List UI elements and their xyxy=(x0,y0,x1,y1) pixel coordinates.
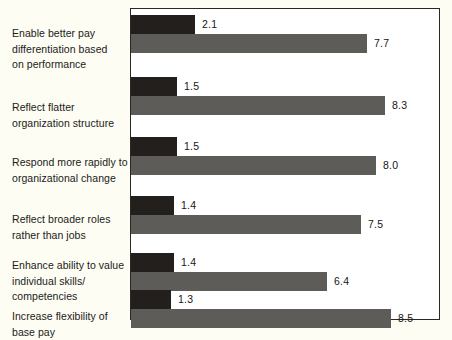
bar-value-dark-0: 2.1 xyxy=(202,15,217,34)
category-label-3: Reflect broader roles rather than jobs xyxy=(12,212,130,243)
bar-gray-0 xyxy=(131,34,367,53)
category-label-column: Enable better pay differentiation based … xyxy=(0,0,128,333)
bar-gray-4 xyxy=(131,272,327,291)
bar-value-dark-3: 1.4 xyxy=(181,196,196,215)
bar-value-gray-4: 6.4 xyxy=(334,272,349,291)
bar-value-gray-2: 8.0 xyxy=(383,156,398,175)
bar-gray-2 xyxy=(131,156,376,175)
bar-dark-1 xyxy=(131,77,177,96)
bar-value-gray-0: 7.7 xyxy=(374,34,389,53)
bar-gray-3 xyxy=(131,215,361,234)
category-label-5: Increase flexibility of base pay xyxy=(12,309,130,340)
bar-gray-1 xyxy=(131,96,385,115)
bar-dark-2 xyxy=(131,137,177,156)
bars-container: 2.1 7.7 1.5 8.3 1.5 8.0 1.4 7.5 1.4 6.4 xyxy=(131,9,439,319)
bar-dark-4 xyxy=(131,253,174,272)
bar-value-dark-1: 1.5 xyxy=(184,77,199,96)
plot-area: 2.1 7.7 1.5 8.3 1.5 8.0 1.4 7.5 1.4 6.4 xyxy=(130,8,440,320)
category-label-1: Reflect flatter organization structure xyxy=(12,100,130,131)
bar-value-gray-3: 7.5 xyxy=(368,215,383,234)
bar-dark-3 xyxy=(131,196,174,215)
category-label-0: Enable better pay differentiation based … xyxy=(12,26,130,73)
bar-value-gray-5: 8.5 xyxy=(398,309,413,328)
bar-dark-5 xyxy=(131,290,171,309)
bar-value-dark-2: 1.5 xyxy=(184,137,199,156)
bar-dark-0 xyxy=(131,15,195,34)
bar-gray-5 xyxy=(131,309,391,328)
bar-value-dark-5: 1.3 xyxy=(178,290,193,309)
category-label-4: Enhance ability to value individual skil… xyxy=(12,258,130,305)
bar-value-dark-4: 1.4 xyxy=(181,253,196,272)
bar-value-gray-1: 8.3 xyxy=(392,96,407,115)
category-label-2: Respond more rapidly to organizational c… xyxy=(12,155,130,186)
